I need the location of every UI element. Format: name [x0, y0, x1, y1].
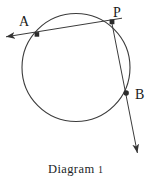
caption-number: 1	[98, 164, 103, 175]
point-label-p: P	[113, 6, 121, 20]
point-label-a: A	[19, 15, 29, 29]
caption-text: Diagram	[48, 162, 98, 176]
point-label-b: B	[135, 88, 144, 102]
point-marker-A	[35, 32, 40, 37]
geometry-diagram-figure: A P B Diagram 1	[0, 0, 151, 185]
secant-line-PB	[112, 22, 138, 153]
figure-caption: Diagram 1	[0, 162, 151, 177]
circle-shape	[22, 14, 130, 122]
point-marker-P	[110, 19, 115, 24]
point-marker-B	[124, 90, 129, 95]
